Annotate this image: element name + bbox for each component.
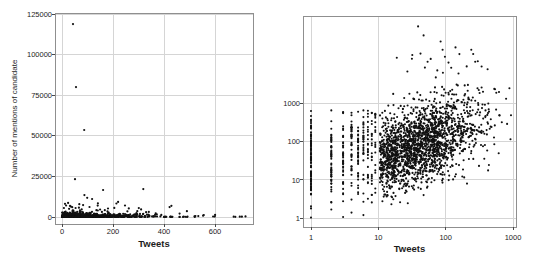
- data-point: [458, 127, 460, 129]
- data-point: [463, 129, 465, 131]
- data-point: [400, 105, 402, 107]
- data-point: [455, 163, 457, 165]
- data-point: [392, 160, 394, 162]
- data-point: [467, 101, 469, 103]
- tick-marks: [52, 14, 215, 227]
- data-point: [98, 214, 100, 216]
- data-point: [310, 125, 312, 127]
- data-point: [423, 163, 425, 165]
- data-point: [436, 164, 438, 166]
- data-point: [454, 175, 456, 177]
- data-point: [472, 109, 474, 111]
- data-point: [394, 121, 396, 123]
- data-point: [414, 130, 416, 132]
- plot-frame: [55, 13, 253, 224]
- data-point: [386, 194, 388, 196]
- data-point: [435, 110, 437, 112]
- data-point: [350, 149, 352, 151]
- data-point: [380, 167, 382, 169]
- data-point: [357, 172, 359, 174]
- data-point: [357, 138, 359, 140]
- data-point: [122, 215, 124, 217]
- data-point: [456, 143, 458, 145]
- data-point: [506, 123, 508, 125]
- data-point: [453, 105, 455, 107]
- data-point: [342, 188, 344, 190]
- data-point: [380, 159, 382, 161]
- data-point: [423, 148, 425, 150]
- data-point: [409, 127, 411, 129]
- data-point: [362, 132, 364, 134]
- data-point: [409, 151, 411, 153]
- data-point: [408, 186, 410, 188]
- data-point: [350, 174, 352, 176]
- data-point: [414, 134, 416, 136]
- data-point: [357, 184, 359, 186]
- data-point: [442, 117, 444, 119]
- data-point: [440, 165, 442, 167]
- data-point: [357, 179, 359, 181]
- data-point: [330, 166, 332, 168]
- data-point: [419, 53, 421, 55]
- data-point: [374, 113, 376, 115]
- data-point: [417, 25, 419, 27]
- data-point: [170, 205, 172, 207]
- data-point: [447, 152, 449, 154]
- x-tick-label: 200: [107, 227, 120, 236]
- data-point: [398, 127, 400, 129]
- data-point: [342, 145, 344, 147]
- data-point: [461, 175, 463, 177]
- data-point: [422, 170, 424, 172]
- data-point: [102, 189, 104, 191]
- data-point: [117, 201, 119, 203]
- data-point: [330, 151, 332, 153]
- data-point: [367, 157, 369, 159]
- data-point: [145, 211, 147, 213]
- data-point: [450, 128, 452, 130]
- data-point: [367, 110, 369, 112]
- data-point: [371, 138, 373, 140]
- data-point: [464, 93, 466, 95]
- data-point: [481, 65, 483, 67]
- data-point: [362, 178, 364, 180]
- data-point: [171, 216, 173, 218]
- data-point: [417, 143, 419, 145]
- data-point: [498, 152, 500, 154]
- data-point: [415, 180, 417, 182]
- data-point: [86, 212, 88, 214]
- data-point: [440, 160, 442, 162]
- data-point: [407, 104, 409, 106]
- data-point: [420, 188, 422, 190]
- data-point: [342, 136, 344, 138]
- data-point: [395, 181, 397, 183]
- data-point: [374, 151, 376, 153]
- data-point: [439, 158, 441, 160]
- data-point: [461, 150, 463, 152]
- data-point: [472, 53, 474, 55]
- data-point: [461, 116, 463, 118]
- data-point: [99, 208, 101, 210]
- data-point: [403, 173, 405, 175]
- data-point: [402, 175, 404, 177]
- data-point: [428, 155, 430, 157]
- data-point: [342, 171, 344, 173]
- data-point: [131, 216, 133, 218]
- data-point: [480, 144, 482, 146]
- data-point: [393, 142, 395, 144]
- data-point: [415, 172, 417, 174]
- data-point: [445, 111, 447, 113]
- data-point: [397, 174, 399, 176]
- data-point: [416, 175, 418, 177]
- data-point: [450, 98, 452, 100]
- data-point: [476, 130, 478, 132]
- data-point: [450, 110, 452, 112]
- y-tick-label: 10: [292, 176, 300, 185]
- data-point: [330, 136, 332, 138]
- data-point: [405, 149, 407, 151]
- data-point: [350, 114, 352, 116]
- data-point: [362, 126, 364, 128]
- data-point: [357, 153, 359, 155]
- data-point: [399, 135, 401, 137]
- data-point: [386, 140, 388, 142]
- data-point: [398, 131, 400, 133]
